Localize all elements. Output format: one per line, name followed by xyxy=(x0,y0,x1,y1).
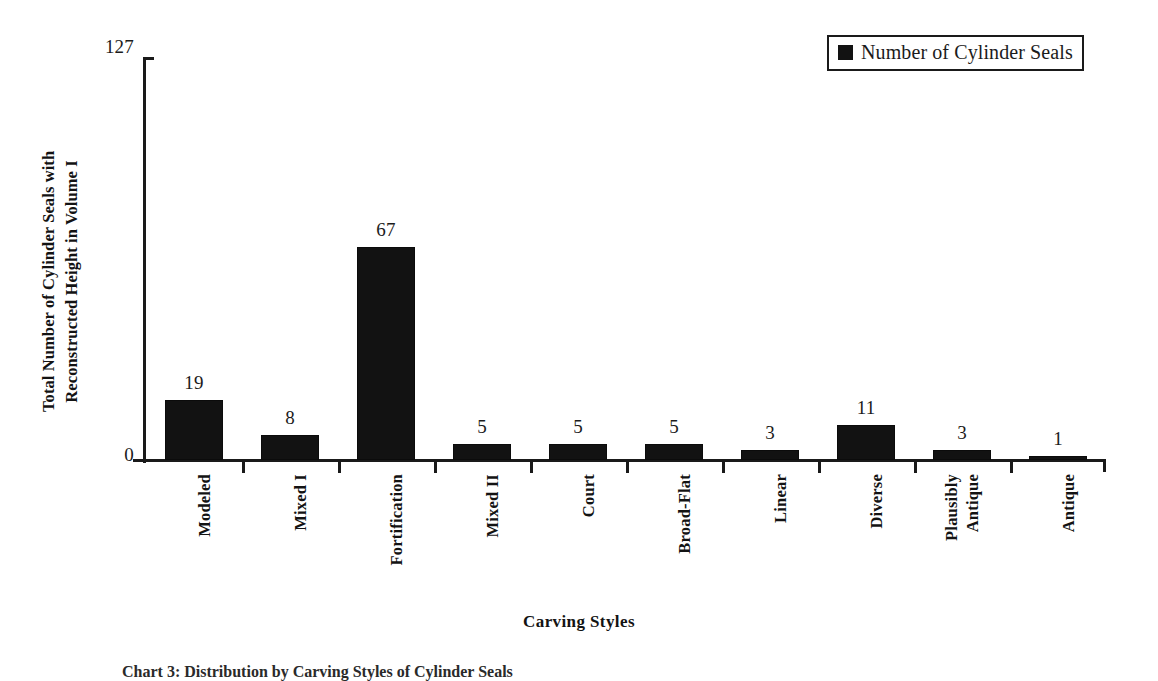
bar-value-label: 19 xyxy=(184,372,203,394)
bar-group: 19 xyxy=(146,57,242,460)
bar-group: 3 xyxy=(914,57,1010,460)
bar xyxy=(165,400,223,460)
x-axis-end-tick xyxy=(1103,459,1106,472)
bar-value-label: 3 xyxy=(765,422,775,444)
category-label-text: Mixed I xyxy=(290,474,311,624)
x-axis-category-label: Diverse xyxy=(866,474,886,624)
bar xyxy=(453,444,511,460)
category-label-text: Mixed II xyxy=(482,474,503,624)
x-axis-category-label: Linear xyxy=(770,474,790,624)
bar xyxy=(933,450,991,460)
bar-group: 5 xyxy=(530,57,626,460)
category-label-text: Modeled xyxy=(194,474,215,624)
x-axis-tick xyxy=(434,460,437,473)
x-axis-tick xyxy=(818,460,821,473)
x-axis-tick xyxy=(626,460,629,473)
bar-value-label: 3 xyxy=(957,422,967,444)
category-label-text: Fortification xyxy=(386,474,407,624)
x-axis-category-label: Mixed I xyxy=(290,474,310,624)
x-axis-category-label: Mixed II xyxy=(482,474,502,624)
bar-group: 5 xyxy=(626,57,722,460)
category-label-text: Diverse xyxy=(866,474,887,624)
legend: Number of Cylinder Seals xyxy=(827,35,1084,71)
x-axis-tick xyxy=(530,460,533,473)
category-label-text: Broad-Flat xyxy=(674,474,695,624)
bar xyxy=(549,444,607,460)
x-axis-category-label: Fortification xyxy=(386,474,406,624)
bar xyxy=(1029,456,1087,460)
category-label-text: Linear xyxy=(770,474,791,624)
x-axis-category-label: Court xyxy=(578,474,598,624)
bar xyxy=(645,444,703,460)
bar-group: 67 xyxy=(338,57,434,460)
x-axis-category-label: Antique xyxy=(1058,474,1078,624)
x-axis-category-label: Modeled xyxy=(194,474,214,624)
x-axis-tick xyxy=(338,460,341,473)
bar xyxy=(741,450,799,460)
bar xyxy=(261,435,319,460)
bar xyxy=(357,247,415,460)
x-axis-tick xyxy=(914,460,917,473)
bar-value-label: 11 xyxy=(857,397,876,419)
bar-value-label: 5 xyxy=(669,416,679,438)
x-axis-title: Carving Styles xyxy=(0,612,1158,632)
y-axis-max-tick-label: 127 xyxy=(88,36,134,58)
x-axis-tick xyxy=(242,460,245,473)
category-label-text: Antique xyxy=(1058,474,1079,624)
bar-group: 1 xyxy=(1010,57,1106,460)
bar-value-label: 67 xyxy=(376,219,395,241)
legend-label: Number of Cylinder Seals xyxy=(861,41,1073,64)
bar-value-label: 5 xyxy=(477,416,487,438)
figure-caption: Chart 3: Distribution by Carving Styles … xyxy=(122,663,1122,681)
bar-group: 5 xyxy=(434,57,530,460)
bar-value-label: 8 xyxy=(285,407,295,429)
bar-group: 8 xyxy=(242,57,338,460)
x-axis-category-label: Plausibly Antique xyxy=(941,474,983,624)
x-axis-category-label: Broad-Flat xyxy=(674,474,694,624)
x-axis-tick xyxy=(1010,460,1013,473)
category-label-text: Court xyxy=(578,474,599,624)
category-label-text: Plausibly Antique xyxy=(941,474,984,624)
y-axis-min-tick-label: 0 xyxy=(103,444,134,466)
bar-value-label: 5 xyxy=(573,416,583,438)
bar xyxy=(837,425,895,460)
bar-group: 3 xyxy=(722,57,818,460)
bar-group: 11 xyxy=(818,57,914,460)
plot-area: 1986755531131 xyxy=(146,57,1106,460)
bar-value-label: 1 xyxy=(1053,428,1063,450)
y-axis-title: Total Number of Cylinder Seals withRecon… xyxy=(37,66,84,496)
legend-swatch-icon xyxy=(838,45,853,60)
x-axis-tick xyxy=(722,460,725,473)
